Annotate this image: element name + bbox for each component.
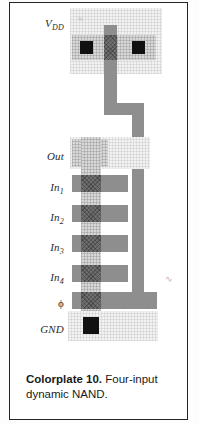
gnd-well-wash bbox=[68, 311, 158, 341]
in2-gate-overlap bbox=[81, 205, 101, 222]
in4-gate-overlap bbox=[81, 265, 101, 282]
label-gnd: GND bbox=[14, 323, 64, 335]
label-vdd-text: V bbox=[45, 17, 52, 29]
label-in3: In3 bbox=[18, 241, 64, 256]
label-out-text: Out bbox=[47, 150, 64, 162]
label-in4-sub: 4 bbox=[60, 277, 64, 286]
right-annotation-mark: ∿ bbox=[165, 275, 173, 284]
label-out: Out bbox=[18, 150, 64, 162]
in3-gate-overlap bbox=[81, 235, 101, 252]
label-in1: In1 bbox=[18, 181, 64, 196]
label-in4: In4 bbox=[18, 271, 64, 286]
caption-label: Colorplate 10. bbox=[26, 373, 102, 385]
label-in2-sub: 2 bbox=[60, 217, 64, 226]
label-in1-text: In bbox=[50, 181, 60, 193]
top-annotation-mark: ≈ bbox=[78, 15, 83, 24]
label-in4-text: In bbox=[50, 271, 60, 283]
figure-frame: ≈ ∿ VDD Out In1 In2 In3 In4 ϕ bbox=[9, 2, 188, 420]
label-vdd: VDD bbox=[18, 17, 64, 32]
label-in2-text: In bbox=[50, 211, 60, 223]
label-vdd-sub: DD bbox=[52, 23, 64, 32]
output-poly-vertical bbox=[132, 103, 144, 299]
in1-gate-overlap bbox=[81, 175, 101, 192]
label-phi-text: ϕ bbox=[58, 297, 64, 309]
figure-caption: Colorplate 10. Four-input dynamic NAND. bbox=[26, 372, 176, 402]
figure-page: ≈ ∿ VDD Out In1 In2 In3 In4 ϕ bbox=[0, 0, 199, 424]
label-phi: ϕ bbox=[18, 297, 64, 309]
phi-gate-overlap bbox=[81, 292, 101, 309]
vdd-gate-overlap bbox=[104, 35, 117, 60]
layout-artwork: ≈ ∿ VDD Out In1 In2 In3 In4 ϕ bbox=[10, 3, 186, 353]
gnd-contact bbox=[83, 317, 99, 334]
label-in3-text: In bbox=[50, 241, 60, 253]
label-gnd-text: GND bbox=[40, 323, 64, 335]
vdd-contact-left bbox=[80, 41, 93, 54]
label-in1-sub: 1 bbox=[60, 187, 64, 196]
label-in2: In2 bbox=[18, 211, 64, 226]
label-in3-sub: 3 bbox=[60, 247, 64, 256]
vdd-contact-right bbox=[132, 41, 145, 54]
